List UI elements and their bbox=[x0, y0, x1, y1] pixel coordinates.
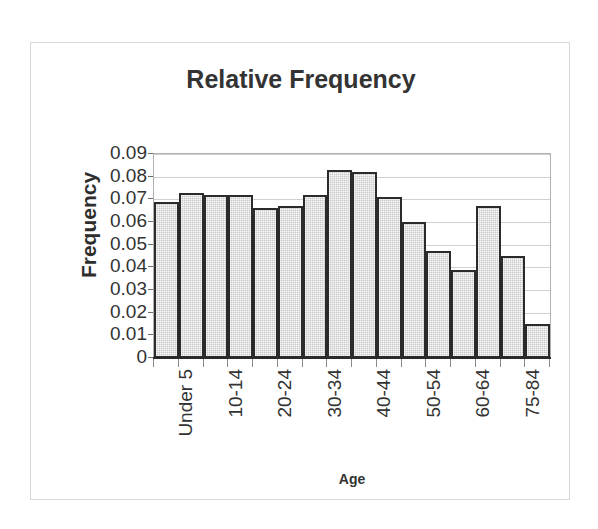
bar bbox=[253, 208, 278, 358]
x-axis-tick-labels: Under 510-1420-2430-3440-4450-5460-6475-… bbox=[153, 369, 551, 465]
bar bbox=[402, 222, 427, 358]
x-axis-tick-label: 75-84 bbox=[522, 369, 544, 465]
x-axis-tick-mark bbox=[500, 359, 501, 367]
x-axis-tick-marks bbox=[153, 359, 551, 368]
bar bbox=[352, 172, 377, 358]
x-axis-tick-mark bbox=[203, 359, 204, 367]
bar bbox=[525, 324, 550, 358]
bar bbox=[179, 193, 204, 358]
x-axis-tick-mark bbox=[450, 359, 451, 367]
bar bbox=[377, 197, 402, 358]
chart-frame: Relative Frequency Frequency 0.090.080.0… bbox=[30, 42, 570, 500]
bar bbox=[278, 206, 303, 358]
x-axis-tick-label: 60-64 bbox=[472, 369, 494, 465]
bar bbox=[476, 206, 501, 358]
x-axis-tick-label: 40-44 bbox=[373, 369, 395, 465]
chart-page: Relative Frequency Frequency 0.090.080.0… bbox=[0, 0, 598, 529]
x-axis-tick-label: Under 5 bbox=[175, 369, 197, 465]
bar bbox=[228, 195, 253, 358]
bar bbox=[204, 195, 229, 358]
chart-title: Relative Frequency bbox=[31, 65, 571, 94]
x-axis-tick-label: 10-14 bbox=[225, 369, 247, 465]
bar bbox=[154, 202, 179, 358]
x-axis-tick-label: 50-54 bbox=[423, 369, 445, 465]
bar bbox=[426, 251, 451, 358]
x-axis-tick-mark bbox=[178, 359, 179, 367]
plot-area bbox=[153, 153, 551, 358]
bar bbox=[303, 195, 328, 358]
x-axis-tick-mark bbox=[326, 359, 327, 367]
bar bbox=[327, 170, 352, 358]
x-axis-tick-mark bbox=[524, 359, 525, 367]
x-axis-tick-mark bbox=[302, 359, 303, 367]
x-axis-tick-mark bbox=[252, 359, 253, 367]
gridline bbox=[154, 154, 550, 155]
x-axis-tick-mark bbox=[227, 359, 228, 367]
x-axis-tick-mark bbox=[376, 359, 377, 367]
x-axis-title: Age bbox=[153, 471, 551, 487]
x-axis-tick-label: 20-24 bbox=[274, 369, 296, 465]
x-axis-tick-mark bbox=[401, 359, 402, 367]
bar bbox=[451, 270, 476, 358]
x-axis-tick-mark bbox=[277, 359, 278, 367]
y-axis-tick-marks bbox=[31, 153, 161, 357]
x-axis-tick-mark bbox=[425, 359, 426, 367]
x-axis-tick-mark bbox=[475, 359, 476, 367]
x-axis-tick-label: 30-34 bbox=[324, 369, 346, 465]
x-axis-tick-mark bbox=[351, 359, 352, 367]
bar bbox=[501, 256, 526, 358]
x-axis-tick-mark bbox=[153, 359, 154, 367]
x-axis-tick-mark bbox=[549, 359, 550, 367]
